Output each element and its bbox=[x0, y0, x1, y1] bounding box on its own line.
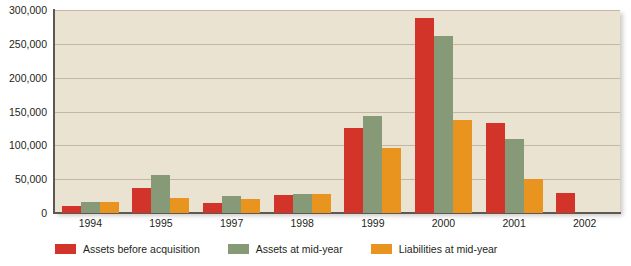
bar bbox=[382, 148, 401, 213]
bar bbox=[556, 193, 575, 213]
bar bbox=[274, 195, 293, 213]
legend-label: Assets at mid-year bbox=[256, 244, 343, 255]
bar bbox=[132, 188, 151, 213]
bar bbox=[434, 36, 453, 213]
bar bbox=[293, 194, 312, 213]
bar bbox=[505, 139, 524, 213]
bar-group bbox=[132, 10, 189, 213]
x-axis-tick-label: 1997 bbox=[197, 217, 267, 230]
bar bbox=[524, 179, 543, 213]
bar bbox=[81, 202, 100, 214]
x-axis-tick-label: 2002 bbox=[550, 217, 620, 230]
y-axis-tick-label: 150,000 bbox=[9, 106, 47, 117]
bar bbox=[241, 199, 260, 213]
legend-swatch bbox=[228, 244, 249, 254]
y-axis-tick-label: 300,000 bbox=[9, 5, 47, 16]
x-axis-tick-label: 1994 bbox=[55, 217, 125, 230]
legend-swatch bbox=[55, 244, 76, 254]
x-axis-tick-label: 1998 bbox=[267, 217, 337, 230]
bar-chart: 050,000100,000150,000200,000250,000300,0… bbox=[0, 0, 631, 266]
x-axis-tick-label: 2000 bbox=[408, 217, 478, 230]
x-axis-tick-label: 2001 bbox=[479, 217, 549, 230]
bar bbox=[100, 202, 119, 214]
y-axis-tick-label: 100,000 bbox=[9, 140, 47, 151]
bar bbox=[151, 175, 170, 213]
bar-group bbox=[415, 10, 472, 213]
y-axis-tick-label: 0 bbox=[41, 208, 47, 219]
legend-label: Assets before acquisition bbox=[83, 244, 200, 255]
x-axis-tick-label: 1999 bbox=[338, 217, 408, 230]
bar bbox=[170, 198, 189, 213]
bars-layer bbox=[55, 10, 620, 213]
bar bbox=[486, 123, 505, 213]
bar-group bbox=[556, 10, 613, 213]
legend-entry: Assets at mid-year bbox=[228, 244, 343, 255]
legend-label: Liabilities at mid-year bbox=[399, 244, 498, 255]
y-axis-tick-label: 250,000 bbox=[9, 39, 47, 50]
legend-entry: Assets before acquisition bbox=[55, 244, 200, 255]
y-axis-tick-label: 50,000 bbox=[15, 174, 47, 185]
bar-group bbox=[274, 10, 331, 213]
x-axis-tick-label: 1995 bbox=[126, 217, 196, 230]
bar bbox=[222, 196, 241, 213]
bar-group bbox=[344, 10, 401, 213]
legend-swatch bbox=[371, 244, 392, 254]
bar bbox=[415, 18, 434, 213]
bar bbox=[312, 194, 331, 213]
y-axis-tick-label: 200,000 bbox=[9, 72, 47, 83]
legend-entry: Liabilities at mid-year bbox=[371, 244, 498, 255]
bar-group bbox=[203, 10, 260, 213]
bar bbox=[203, 203, 222, 213]
y-axis: 050,000100,000150,000200,000250,000300,0… bbox=[0, 0, 52, 220]
bar bbox=[453, 120, 472, 213]
bar bbox=[344, 128, 363, 213]
bar-group bbox=[486, 10, 543, 213]
x-axis: 19941995199719981999200020012002 bbox=[55, 217, 620, 233]
bar bbox=[363, 116, 382, 213]
chart-legend: Assets before acquisitionAssets at mid-y… bbox=[55, 241, 525, 257]
bar-group bbox=[62, 10, 119, 213]
bar bbox=[62, 206, 81, 213]
